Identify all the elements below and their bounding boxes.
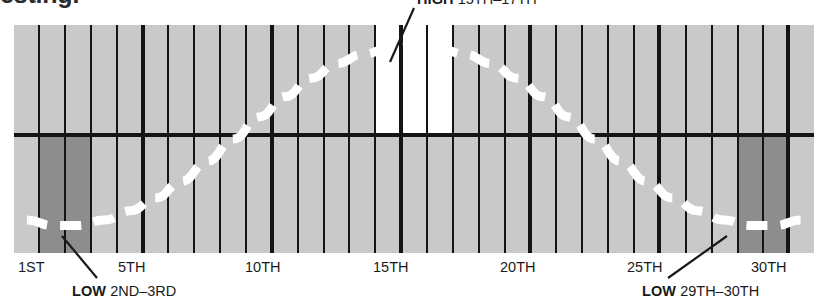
day-cell-lower xyxy=(92,137,116,253)
day-column xyxy=(66,25,92,253)
day-column xyxy=(195,25,221,253)
axis-tick-label: 5TH xyxy=(118,258,145,276)
day-cell-lower xyxy=(609,137,633,253)
day-column xyxy=(169,25,195,253)
axis-tick-label: 30TH xyxy=(751,258,786,276)
day-cell-upper xyxy=(506,25,530,135)
day-cell-upper xyxy=(247,25,271,135)
low-right-range: 29TH–30TH xyxy=(680,283,759,299)
day-cell-lower xyxy=(299,137,323,253)
day-cell-lower xyxy=(195,137,219,253)
day-cell-lower xyxy=(687,137,711,253)
tide-chart-figure: esting. HIGH 15TH–17TH 1ST5TH10TH15TH20T… xyxy=(0,0,828,304)
day-column xyxy=(428,25,454,253)
axis-tick-label: 10TH xyxy=(245,258,280,276)
day-cell-lower xyxy=(14,137,38,253)
high-callout-keyword: HIGH xyxy=(417,0,454,7)
day-column xyxy=(687,25,713,253)
day-cell-lower xyxy=(790,137,814,253)
day-cell-upper xyxy=(739,25,763,135)
day-cell-upper xyxy=(635,25,659,135)
day-column xyxy=(739,25,765,253)
chart-day-columns xyxy=(14,25,814,253)
day-cell-upper xyxy=(454,25,478,135)
day-column xyxy=(661,25,687,253)
day-cell-upper xyxy=(14,25,38,135)
day-column xyxy=(273,25,299,253)
day-cell-upper xyxy=(195,25,219,135)
day-cell-lower xyxy=(350,137,374,253)
day-cell-lower xyxy=(428,137,452,253)
day-cell-lower xyxy=(713,137,737,253)
low-left-range: 2ND–3RD xyxy=(110,283,176,299)
day-column xyxy=(14,25,40,253)
day-cell-upper xyxy=(169,25,193,135)
day-cell-upper xyxy=(609,25,633,135)
day-cell-upper xyxy=(583,25,607,135)
clipped-heading-text: esting. xyxy=(0,0,79,8)
day-cell-lower xyxy=(661,137,685,253)
low-callout-left-label: LOW 2ND–3RD xyxy=(72,282,176,300)
day-column xyxy=(454,25,480,253)
day-cell-lower xyxy=(221,137,245,253)
day-cell-upper xyxy=(687,25,711,135)
day-column xyxy=(376,25,402,253)
day-cell-lower xyxy=(143,137,167,253)
grid-week-rule xyxy=(270,25,274,253)
day-column xyxy=(557,25,583,253)
day-cell-upper xyxy=(118,25,142,135)
day-cell-upper xyxy=(376,25,400,135)
high-callout-range: 15TH–17TH xyxy=(458,0,537,7)
day-column xyxy=(532,25,558,253)
day-cell-lower xyxy=(480,137,504,253)
grid-week-rule xyxy=(786,25,790,253)
day-cell-lower xyxy=(583,137,607,253)
day-cell-lower xyxy=(764,137,788,253)
grid-week-rule xyxy=(399,25,403,253)
day-cell-upper xyxy=(325,25,349,135)
day-column xyxy=(221,25,247,253)
day-cell-upper xyxy=(221,25,245,135)
day-column xyxy=(583,25,609,253)
grid-week-rule xyxy=(528,25,532,253)
day-cell-upper xyxy=(143,25,167,135)
day-cell-upper xyxy=(713,25,737,135)
day-column xyxy=(40,25,66,253)
day-cell-lower xyxy=(247,137,271,253)
day-cell-lower xyxy=(325,137,349,253)
day-column xyxy=(92,25,118,253)
day-cell-upper xyxy=(764,25,788,135)
day-cell-upper xyxy=(532,25,556,135)
day-column xyxy=(790,25,814,253)
grid-week-rule xyxy=(141,25,145,253)
day-cell-upper xyxy=(299,25,323,135)
day-cell-lower xyxy=(376,137,400,253)
day-column xyxy=(402,25,428,253)
day-cell-lower xyxy=(40,137,64,253)
day-column xyxy=(143,25,169,253)
day-column xyxy=(325,25,351,253)
day-cell-upper xyxy=(66,25,90,135)
axis-tick-label: 20TH xyxy=(500,258,535,276)
day-cell-lower xyxy=(118,137,142,253)
axis-tick-label: 1ST xyxy=(18,258,45,276)
grid-week-rule xyxy=(657,25,661,253)
day-column xyxy=(299,25,325,253)
low-right-keyword: LOW xyxy=(642,283,676,299)
day-cell-lower xyxy=(532,137,556,253)
day-cell-upper xyxy=(790,25,814,135)
day-cell-lower xyxy=(273,137,297,253)
day-column xyxy=(247,25,273,253)
day-cell-upper xyxy=(480,25,504,135)
day-cell-lower xyxy=(506,137,530,253)
day-column xyxy=(350,25,376,253)
day-column xyxy=(609,25,635,253)
day-cell-lower xyxy=(66,137,90,253)
day-cell-lower xyxy=(169,137,193,253)
day-column xyxy=(480,25,506,253)
day-cell-upper xyxy=(402,25,426,135)
axis-tick-label: 15TH xyxy=(373,258,408,276)
day-cell-lower xyxy=(402,137,426,253)
day-cell-upper xyxy=(273,25,297,135)
axis-tick-label: 25TH xyxy=(627,258,662,276)
